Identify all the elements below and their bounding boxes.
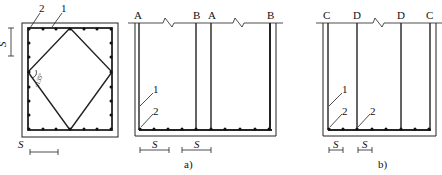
panel-b-leaders bbox=[329, 93, 370, 127]
panel-b-label-C1: C bbox=[323, 9, 330, 21]
panel-a-spacing-2: S bbox=[194, 138, 200, 150]
horizontal-spacing-dimension bbox=[30, 149, 58, 155]
panel-b-leader-2a: 2 bbox=[342, 105, 348, 117]
panel-a-label-B1: B bbox=[193, 9, 200, 21]
panel-b-section bbox=[316, 18, 442, 136]
panel-a-label-A1: A bbox=[134, 9, 142, 21]
vertical-spacing-dimension bbox=[8, 28, 14, 56]
angle-label: ≤135° bbox=[33, 72, 44, 88]
panel-a-spacing-dims bbox=[140, 147, 211, 153]
spacing-label-vertical: S bbox=[0, 41, 8, 47]
panel-b-label-D2: D bbox=[397, 9, 405, 21]
panel-b-leader-1: 1 bbox=[342, 83, 348, 95]
leader-lines bbox=[30, 13, 62, 28]
leader-label-2: 2 bbox=[39, 2, 45, 14]
panel-b-leader-2b: 2 bbox=[370, 105, 376, 117]
spacing-label-horizontal: S bbox=[18, 138, 24, 150]
panel-b-spacing-2: S bbox=[362, 138, 368, 150]
panel-a-label-B2: B bbox=[267, 9, 274, 21]
panel-a-leaders bbox=[140, 93, 153, 127]
panel-b-label-D1: D bbox=[353, 9, 361, 21]
panel-b-label-C2: C bbox=[426, 9, 433, 21]
panel-b-caption: b) bbox=[378, 158, 388, 171]
panel-a-section bbox=[128, 18, 283, 136]
panel-a-caption: a) bbox=[184, 158, 193, 171]
leader-label-1: 1 bbox=[61, 2, 67, 14]
panel-b-spacing-1: S bbox=[333, 138, 339, 150]
panel-a-spacing-1: S bbox=[152, 138, 158, 150]
panel-a-leader-2: 2 bbox=[153, 105, 159, 117]
reinforcement-diagram: 2 1 S ≤135° S A B A B bbox=[0, 0, 442, 175]
panel-a-leader-1: 1 bbox=[153, 83, 159, 95]
panel-a-label-A2: A bbox=[208, 9, 216, 21]
